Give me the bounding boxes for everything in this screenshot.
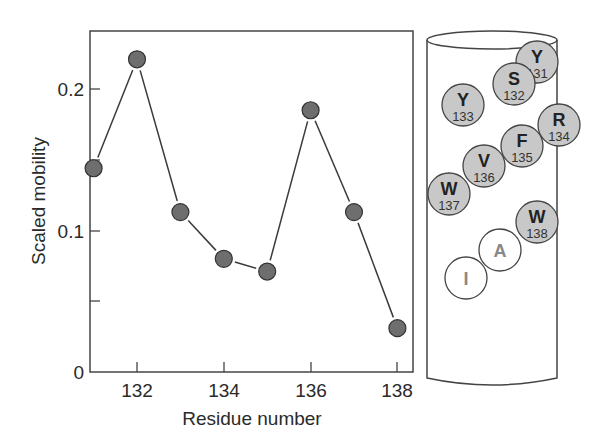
helix-residue: R134	[538, 104, 580, 146]
helix-residue: F135	[501, 125, 543, 167]
residue-letter: A	[494, 241, 507, 261]
helix-residue: Y133	[442, 84, 484, 126]
residue-number: 136	[473, 170, 495, 185]
helix-residue: W137	[428, 173, 470, 215]
residue-letter: R	[553, 110, 566, 130]
data-point	[389, 320, 406, 337]
residue-number: 135	[511, 150, 533, 165]
series-line	[98, 70, 394, 317]
data-point	[259, 263, 276, 280]
x-axis-label: Residue number	[182, 408, 322, 429]
residue-letter: Y	[531, 47, 543, 67]
x-tick-label: 134	[208, 380, 240, 401]
residue-letter: W	[529, 207, 546, 227]
residue-letter: V	[478, 151, 490, 171]
residue-letter: I	[463, 269, 468, 289]
helix-residue: S132	[493, 63, 535, 105]
data-point	[85, 160, 102, 177]
residue-letter: W	[441, 179, 458, 199]
x-tick-label: 136	[295, 380, 327, 401]
y-axis-label: Scaled mobility	[28, 137, 49, 265]
x-tick-label: 138	[381, 380, 413, 401]
residue-number: 132	[503, 88, 525, 103]
helix-residue: V136	[463, 145, 505, 187]
helix-residue: I	[445, 257, 487, 299]
figure: 0.2 0.1 0 Scaled mobility 132 134 136 13…	[0, 0, 606, 444]
residue-letter: Y	[457, 90, 469, 110]
data-point	[129, 51, 146, 68]
helix-residue: W138	[516, 201, 558, 243]
y-tick-label: 0.2	[58, 79, 84, 100]
data-point	[346, 204, 363, 221]
residue-number: 137	[438, 198, 460, 213]
residue-letter: S	[508, 69, 520, 89]
data-point	[302, 102, 319, 119]
series-markers	[85, 51, 406, 337]
residue-number: 133	[452, 109, 474, 124]
residue-number: 134	[548, 129, 570, 144]
x-tick-label: 132	[121, 380, 153, 401]
y-axis: 0.2 0.1 0 Scaled mobility	[28, 79, 100, 383]
helix-residue: A	[479, 229, 521, 271]
residue-letter: F	[517, 131, 528, 151]
residue-number: 138	[526, 226, 548, 241]
data-point	[172, 204, 189, 221]
data-point	[215, 250, 232, 267]
plot-frame	[90, 31, 413, 372]
y-tick-label: 0.1	[58, 221, 84, 242]
y-tick-label: 0	[73, 362, 84, 383]
